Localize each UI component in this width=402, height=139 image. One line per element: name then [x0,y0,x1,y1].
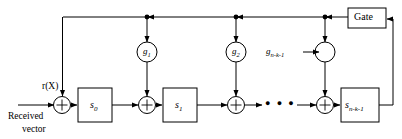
tap-dot-g1 [145,15,150,20]
wire-layer [0,0,402,139]
feedback-right-to-gate [379,19,393,105]
syndrome-circuit-diagram: r(X) Received vector s0 s1 sn-k-1 g1 g2 … [0,0,402,139]
gate-label: Gate [354,12,373,22]
tap-dot-gn [323,15,328,20]
register-label-s0: s0 [90,100,97,113]
multiplier-label-g1: g1 [143,47,151,58]
received-caption-line1: Received [8,112,43,122]
input-signal-text: r(X) [42,81,58,91]
received-caption-line2: vector [22,125,46,135]
input-signal-label: r(X) [42,82,58,92]
register-label-snk1: sn-k-1 [345,100,364,113]
multiplier-label-g2: g2 [232,47,240,58]
tap-dot-g2 [234,15,239,20]
register-label-s1: s1 [175,100,182,113]
multiplier-label-gnk1: gn-k-1 [266,47,284,58]
ellipsis-dots: ● ● ● [265,99,296,108]
